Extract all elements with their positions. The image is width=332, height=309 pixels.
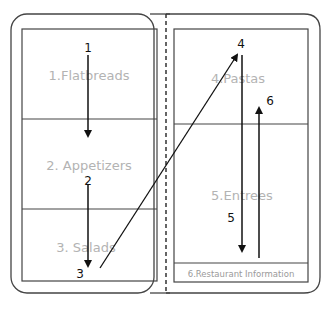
- step-label-5: 5: [227, 211, 235, 225]
- section-label-appetizers: 2. Appetizers: [46, 158, 132, 173]
- step-label-6: 6: [266, 94, 274, 108]
- section-label-restaurant-information: 6.Restaurant Information: [188, 269, 295, 279]
- menu-outer-frame-right: [166, 14, 320, 293]
- step-label-4: 4: [237, 37, 245, 51]
- section-label-flatbreads: 1.Flatbreads: [49, 68, 130, 83]
- step-label-1: 1: [84, 41, 92, 55]
- step-label-3: 3: [76, 267, 84, 281]
- step-label-2: 2: [84, 174, 92, 188]
- section-label-salads: 3. Salads: [56, 240, 116, 255]
- right-page: [174, 29, 308, 282]
- menu-flow-diagram: 1.Flatbreads 2. Appetizers 3. Salads 4.P…: [0, 0, 332, 309]
